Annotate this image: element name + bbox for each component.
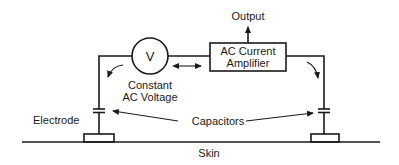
capacitors-label: Capacitors [192, 115, 245, 127]
output-label: Output [231, 10, 264, 22]
right-current-arrow-icon [307, 62, 318, 78]
electrode-label: Electrode [33, 114, 79, 126]
voltmeter-label: V [146, 49, 155, 64]
right-wire [286, 56, 324, 134]
ac-voltage-label: AC Voltage [122, 91, 177, 103]
left-electrode [84, 134, 114, 142]
capacitor-pointer-left [113, 111, 178, 121]
amplifier-label-line2: Amplifier [227, 57, 270, 69]
constant-label: Constant [128, 79, 172, 91]
right-electrode [311, 134, 339, 142]
skin-label: Skin [198, 147, 219, 159]
capacitor-pointer-right [246, 113, 313, 121]
skin-impedance-circuit-diagram: Output V AC Current Amplifier Constant A… [0, 0, 399, 165]
amplifier-label-line1: AC Current [220, 45, 275, 57]
left-current-arrow-icon [108, 65, 123, 77]
